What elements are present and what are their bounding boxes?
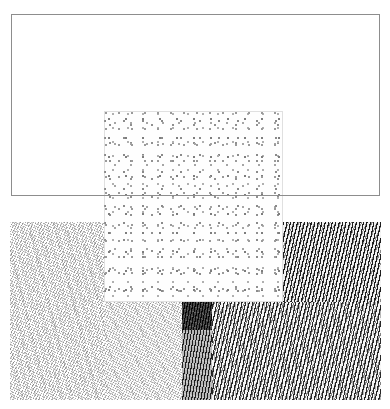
left-hatch-texture-lower-band: [104, 302, 184, 400]
right-wave-texture-upper-band: [283, 222, 381, 302]
dark-bar-upper-segment: [182, 302, 212, 330]
outline-rectangle: [11, 14, 380, 196]
dark-bar-lower-segment: [182, 330, 212, 400]
composition-canvas: [0, 0, 390, 409]
